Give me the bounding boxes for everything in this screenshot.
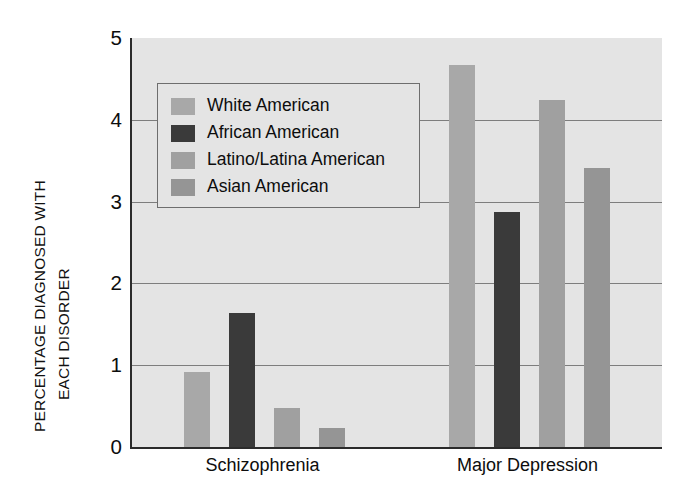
legend-swatch-icon xyxy=(171,179,195,196)
y-tick-label-2: 2 xyxy=(96,273,122,294)
legend-item-label: White American xyxy=(207,97,330,115)
bar-schizophrenia-african-american xyxy=(229,313,255,447)
legend-swatch-icon xyxy=(171,125,195,142)
legend: White AmericanAfrican AmericanLatino/Lat… xyxy=(157,83,420,208)
legend-item-latino-latina-american: Latino/Latina American xyxy=(171,147,385,173)
bar-schizophrenia-latino-latina-american xyxy=(274,408,300,447)
legend-item-african-american: African American xyxy=(171,120,339,146)
y-tick-label-3: 3 xyxy=(96,192,122,213)
legend-item-label: Latino/Latina American xyxy=(207,151,385,169)
bar-chart-figure: PERCENTAGE DIAGNOSED WITH EACH DISORDER … xyxy=(0,0,685,504)
bar-major-depression-african-american xyxy=(494,212,520,447)
y-tick-label-4: 4 xyxy=(96,110,122,131)
legend-item-asian-american: Asian American xyxy=(171,174,329,200)
x-category-label-schizophrenia: Schizophrenia xyxy=(153,456,373,474)
bar-major-depression-asian-american xyxy=(584,168,610,447)
y-tick-label-1: 1 xyxy=(96,355,122,376)
legend-item-label: African American xyxy=(207,124,339,142)
y-tick-label-0: 0 xyxy=(96,437,122,458)
bar-major-depression-white-american xyxy=(449,65,475,447)
y-tick-label-5: 5 xyxy=(96,28,122,49)
bar-schizophrenia-white-american xyxy=(184,372,210,447)
x-category-label-major-depression: Major Depression xyxy=(418,456,638,474)
legend-swatch-icon xyxy=(171,98,195,115)
legend-swatch-icon xyxy=(171,152,195,169)
bar-schizophrenia-asian-american xyxy=(319,428,345,447)
legend-item-white-american: White American xyxy=(171,93,330,119)
bar-major-depression-latino-latina-american xyxy=(539,100,565,447)
legend-item-label: Asian American xyxy=(207,178,329,196)
